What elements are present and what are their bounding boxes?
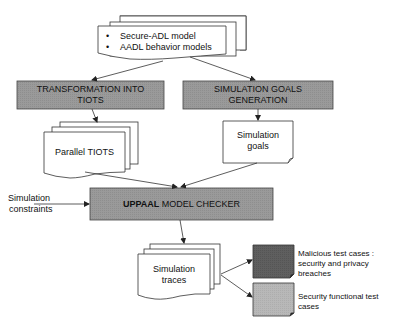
simulation-traces-label: Simulation traces bbox=[138, 264, 210, 286]
malicious-test-cases-document bbox=[253, 245, 294, 278]
process-transformation-line2: TIOTS bbox=[17, 95, 164, 106]
model-checker-rest: MODEL CHECKER bbox=[159, 199, 240, 209]
malicious-test-cases-label: Malicious test cases : security and priv… bbox=[298, 249, 396, 279]
process-goals-line1: SIMULATION GOALS bbox=[183, 84, 333, 95]
simulation-constraints-label: Simulation constraints bbox=[2, 193, 82, 215]
malicious-line1: Malicious test cases : bbox=[298, 249, 396, 259]
security-functional-test-cases-label: Security functional test cases bbox=[298, 292, 396, 312]
constraints-line2: constraints bbox=[2, 204, 82, 215]
functional-line2: cases bbox=[298, 302, 396, 312]
simulation-goals-line1: Simulation bbox=[223, 130, 293, 141]
model-checker-label: UPPAAL MODEL CHECKER bbox=[90, 199, 273, 210]
input-item-aadl-behavior: AADL behavior models bbox=[104, 42, 234, 53]
input-item-secure-adl: Secure-ADL model bbox=[104, 31, 234, 42]
parallel-tiots-label: Parallel TIOTS bbox=[44, 147, 125, 158]
malicious-line2: security and privacy bbox=[298, 259, 396, 269]
security-functional-test-cases-document bbox=[253, 283, 294, 316]
process-transformation-label: TRANSFORMATION INTO TIOTS bbox=[17, 84, 164, 106]
traces-line2: traces bbox=[138, 275, 210, 286]
process-transformation-line1: TRANSFORMATION INTO bbox=[17, 84, 164, 95]
process-goals-line2: GENERATION bbox=[183, 95, 333, 106]
simulation-goals-label: Simulation goals bbox=[223, 130, 293, 152]
malicious-line3: breaches bbox=[298, 269, 396, 279]
traces-line1: Simulation bbox=[138, 264, 210, 275]
input-models-list: Secure-ADL model AADL behavior models bbox=[104, 31, 234, 53]
simulation-goals-line2: goals bbox=[223, 141, 293, 152]
functional-line1: Security functional test bbox=[298, 292, 396, 302]
process-goals-label: SIMULATION GOALS GENERATION bbox=[183, 84, 333, 106]
constraints-line1: Simulation bbox=[2, 193, 82, 204]
model-checker-uppaal: UPPAAL bbox=[123, 199, 159, 209]
